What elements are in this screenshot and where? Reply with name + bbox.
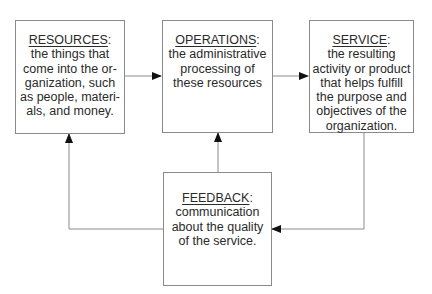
arrow-service-to-feedback (272, 132, 364, 229)
feedback-text-line: about the quality (164, 220, 271, 234)
operations-text-line: processing of (163, 62, 272, 76)
resources-text-line: come into the or- (16, 62, 124, 76)
operations-box: OPERATIONS: the administrative processin… (162, 20, 273, 133)
resources-heading: RESOURCES: (16, 33, 124, 47)
service-text-line: activity or product (310, 62, 413, 76)
operations-text-line: these resources (163, 76, 272, 90)
service-text-line: the resulting (310, 47, 413, 61)
service-text-line: that helps fulfill (310, 76, 413, 90)
operations-heading: OPERATIONS: (163, 33, 272, 47)
feedback-box: FEEDBACK: communication about the qualit… (163, 172, 272, 286)
service-text-line: the purpose and (310, 90, 413, 104)
resources-text-line: ganization, such (16, 76, 124, 90)
resources-box: RESOURCES: the things that come into the… (15, 20, 125, 134)
feedback-text-line: communication (164, 205, 271, 219)
service-heading: SERVICE: (310, 33, 413, 47)
resources-text-line: the things that (16, 47, 124, 61)
operations-text-line: the administrative (163, 47, 272, 61)
resources-text-line: als, and money. (16, 104, 124, 118)
resources-text-line: as people, materi- (16, 90, 124, 104)
service-text-line: organization. (310, 119, 413, 133)
feedback-heading: FEEDBACK: (164, 191, 271, 205)
arrow-feedback-to-resources (69, 134, 163, 229)
service-box: SERVICE: the resulting activity or produ… (309, 20, 414, 133)
service-text-line: objectives of the (310, 104, 413, 118)
feedback-text-line: of the service. (164, 234, 271, 248)
